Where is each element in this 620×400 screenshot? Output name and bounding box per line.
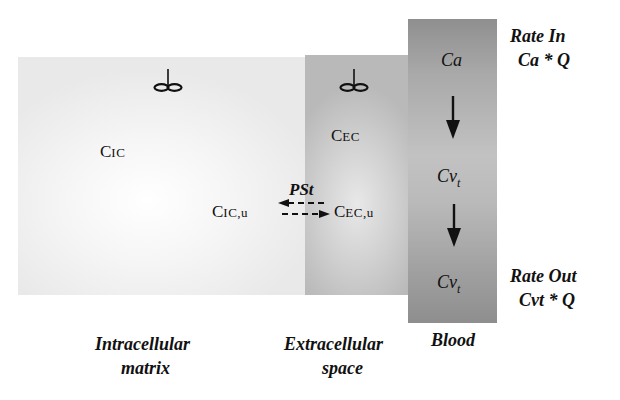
rate-in-formula: Ca * Q: [518, 50, 570, 71]
intracellular-title-line1: Intracellular: [95, 334, 190, 355]
extracellular-title-line2: space: [322, 358, 363, 379]
rate-out-title: Rate Out: [510, 266, 577, 287]
intracellular-title-line2: matrix: [121, 358, 170, 379]
arrow-down-icon-1: [445, 96, 461, 140]
cec-label: CEC: [331, 126, 360, 146]
cvt-label-bottom: Cvt: [437, 272, 460, 297]
stirrer-icon-extracellular: [337, 69, 371, 93]
ca-label: Ca: [441, 50, 462, 71]
cvt-label-mid: Cvt: [437, 166, 460, 191]
cic-label: CIC: [100, 142, 125, 162]
rate-in-title: Rate In: [510, 26, 566, 47]
exchange-arrows-icon: [278, 198, 330, 220]
cic-unbound-label: CIC,u: [212, 202, 248, 222]
cec-unbound-label: CEC,u: [334, 202, 374, 222]
arrow-down-icon-2: [446, 204, 462, 248]
stirrer-icon-intracellular: [151, 69, 185, 93]
extracellular-title-line1: Extracellular: [284, 334, 383, 355]
rate-out-formula: Cvt * Q: [519, 290, 575, 311]
blood-title: Blood: [431, 330, 475, 351]
pst-label: PSt: [289, 180, 314, 200]
